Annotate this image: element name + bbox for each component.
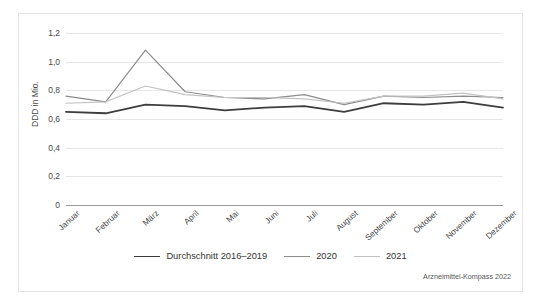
legend-swatch-icon [354,256,380,257]
source-note: Arzneimittel-Kompass 2022 [423,272,511,281]
y-axis-tick-label: 0,6 [48,114,60,124]
chart-legend: Durchschnitt 2016–201920202021 [19,251,522,261]
legend-swatch-icon [134,256,160,257]
legend-item[interactable]: 2021 [354,251,407,261]
gridline: 0 [66,205,503,206]
x-axis-tick-label: Mai [224,208,241,224]
y-axis-tick-label: 0,8 [48,85,60,95]
x-axis-tick-label: November [444,208,479,241]
legend-label: 2020 [316,251,337,261]
y-axis-tick-label: 0 [55,200,60,210]
x-axis-tick-label: Dezember [484,208,519,241]
x-axis-tick-label: Februar [93,208,121,235]
legend-item[interactable]: Durchschnitt 2016–2019 [134,251,267,261]
x-axis-tick-label: Januar [56,208,82,232]
y-axis-label: DDD in Mio. [30,81,40,127]
x-axis-tick-label: Juli [304,208,320,224]
x-axis-tick-label: Oktober [411,208,440,235]
chart-figure: DDD in Mio. 00,20,40,60,81,01,2 JanuarFe… [18,13,523,292]
x-axis-tick-label: September [363,208,400,243]
legend-item[interactable]: 2020 [284,251,337,261]
legend-label: Durchschnitt 2016–2019 [166,251,267,261]
legend-swatch-icon [284,256,310,257]
y-axis-tick-label: 1,0 [48,57,60,67]
series-line [66,50,503,104]
series-line [66,102,503,113]
plot-area: 00,20,40,60,81,01,2 [66,33,503,205]
x-axis-tick-label: März [141,208,161,228]
y-axis-tick-label: 1,2 [48,28,60,38]
legend-label: 2021 [386,251,407,261]
x-axis-tick-label: August [334,208,360,233]
y-axis-tick-label: 0,4 [48,143,60,153]
x-axis-tick-label: April [182,208,201,227]
series-line [66,86,503,103]
x-axis-tick-label: Juni [262,208,280,226]
y-axis-tick-label: 0,2 [48,171,60,181]
series-lines [66,33,503,205]
